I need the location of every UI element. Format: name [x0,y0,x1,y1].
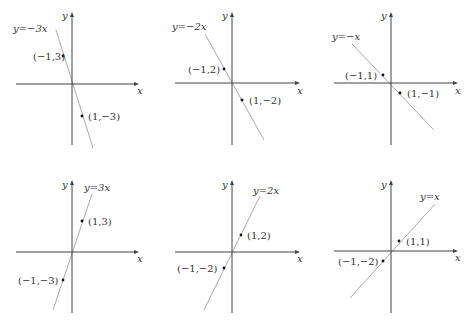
point-label: (1,−2) [249,95,281,106]
x-axis-label: x [455,85,461,96]
point-label: (1,2) [247,230,271,241]
equation-label: y=−3x [12,23,48,34]
point-label: (−1,−3) [18,275,59,286]
data-point [382,74,385,77]
point-label: (−1,−2) [177,263,218,274]
equation-label: y=3x [83,182,110,193]
y-axis-label: y [380,10,387,21]
x-axis-label: x [297,85,303,96]
y-axis-arrow-icon [389,180,393,185]
point-label: (1,−3) [88,111,120,122]
data-point [223,68,226,71]
x-axis-label: x [455,252,461,263]
data-point [81,220,84,223]
y-axis-label: y [380,179,387,190]
function-line [56,30,93,148]
y-axis-arrow-icon [389,12,393,17]
graph-panel: xyy=−3x(−1,3)(1,−3) [12,10,143,148]
data-point [223,267,226,270]
point-label: (−1,1) [345,70,377,81]
y-axis-arrow-icon [70,180,74,185]
function-line [205,34,264,140]
equation-label: y=2x [252,185,279,196]
function-line [352,44,434,130]
graph-panel: xyy=−2x(−1,2)(1,−2) [171,10,303,145]
data-point [81,115,84,118]
x-axis-label: x [297,253,303,264]
y-axis-arrow-icon [230,180,234,185]
point-label: (1,1) [406,236,430,247]
x-axis-label: x [137,85,143,96]
y-axis-label: y [61,10,68,21]
point-label: (−1,−2) [338,256,379,267]
y-axis-label: y [61,179,68,190]
graph-panel: xyy=−x(−1,1)(1,−1) [331,10,461,145]
y-axis-label: y [221,10,228,21]
point-label: (−1,3) [33,51,65,62]
data-point [240,234,243,237]
data-point [398,240,401,243]
equation-label: y=x [419,191,440,202]
graph-panel: xyy=3x(1,3)(−1,−3) [16,179,143,313]
y-axis-arrow-icon [230,12,234,17]
equation-label: y=−x [331,31,360,42]
data-point [399,92,402,95]
linear-function-graphs: xyy=−3x(−1,3)(1,−3)xyy=−2x(−1,2)(1,−2)xy… [0,0,475,327]
point-label: (−1,2) [188,64,220,75]
graph-panel: xyy=x(1,1)(−1,−2) [334,179,461,313]
graph-panel: xyy=2x(1,2)(−1,−2) [175,179,303,313]
x-axis-label: x [137,253,143,264]
equation-label: y=−2x [171,21,207,32]
point-label: (1,3) [88,216,112,227]
y-axis-label: y [221,179,228,190]
y-axis-arrow-icon [70,12,74,17]
data-point [62,279,65,282]
data-point [382,260,385,263]
point-label: (1,−1) [407,88,439,99]
data-point [241,99,244,102]
